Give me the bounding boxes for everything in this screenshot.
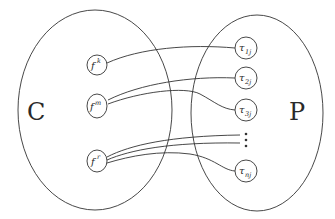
- node-fk: f k: [87, 55, 107, 75]
- edges: [107, 47, 240, 171]
- vertical-ellipsis-icon: [245, 133, 248, 148]
- edge-fr-dots-1: [107, 135, 240, 157]
- node-t2j-sub: 2j: [244, 78, 251, 86]
- node-tnj: τ nj: [235, 160, 257, 182]
- mapping-diagram: C P f k f m f r τ 1j τ 2j: [0, 0, 335, 219]
- node-t1j: τ 1j: [235, 37, 257, 59]
- node-t3j: τ 3j: [235, 99, 257, 121]
- node-tnj-sub: nj: [245, 171, 251, 179]
- node-fm: f m: [87, 94, 107, 118]
- node-fk-sup: k: [97, 57, 101, 65]
- node-t3j-sub: 3j: [245, 110, 251, 118]
- set-p-label: P: [289, 98, 305, 126]
- node-t2j: τ 2j: [235, 67, 257, 89]
- edge-fr-tnj: [107, 153, 235, 171]
- node-fr: f r: [87, 150, 107, 172]
- set-c-label: C: [27, 98, 45, 126]
- node-fm-sup: m: [95, 99, 101, 107]
- edge-fk-t1j: [107, 47, 235, 63]
- node-t1j-sub: 1j: [245, 48, 251, 56]
